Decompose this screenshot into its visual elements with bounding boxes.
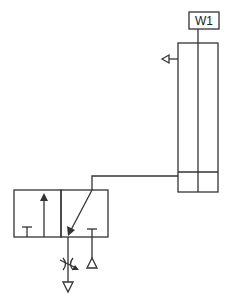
pneumatic-diagram: W1 <box>0 0 235 299</box>
arrow-up-icon <box>40 193 48 201</box>
valve-position-left <box>14 190 61 237</box>
flow-restrictor-icon <box>60 258 79 270</box>
supply-line <box>92 176 178 190</box>
directional-valve <box>14 190 108 237</box>
arrow-diagonal-icon <box>67 226 75 236</box>
flow-arrow-diagonal-line <box>71 190 92 230</box>
cylinder-label: W1 <box>195 14 213 28</box>
pressure-source-icon <box>87 258 97 268</box>
cylinder-exhaust-arrow-icon <box>162 55 178 63</box>
cylinder <box>178 43 218 192</box>
exhaust-port-icon <box>63 282 73 292</box>
